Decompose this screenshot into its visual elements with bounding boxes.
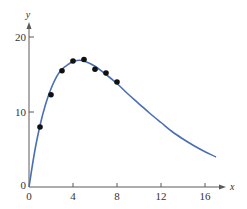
data-point — [114, 79, 120, 85]
x-tick-label: 4 — [70, 190, 76, 202]
data-point — [81, 57, 87, 63]
curve-path — [29, 60, 216, 187]
fitted-curve — [29, 60, 216, 187]
y-axis-label: y — [25, 9, 31, 20]
data-point — [37, 124, 43, 130]
axes — [27, 22, 227, 190]
chart: 048121601020xy — [0, 0, 247, 209]
y-tick-label: 20 — [15, 31, 27, 43]
x-tick-label: 12 — [156, 190, 167, 202]
y-tick-label: 10 — [15, 106, 27, 118]
x-axis-arrow-icon — [219, 185, 226, 190]
x-axis-label: x — [229, 181, 235, 192]
data-points — [37, 57, 120, 130]
y-axis-arrow-icon — [27, 22, 32, 29]
y-tick-label: 0 — [21, 179, 27, 191]
tick-labels: 048121601020xy — [15, 9, 235, 202]
data-point — [103, 70, 109, 76]
data-point — [92, 66, 98, 72]
x-tick-label: 16 — [200, 190, 212, 202]
data-point — [48, 92, 54, 98]
data-point — [70, 58, 76, 64]
x-tick-label: 8 — [114, 190, 120, 202]
data-point — [59, 68, 65, 74]
x-tick-label: 0 — [26, 190, 32, 202]
